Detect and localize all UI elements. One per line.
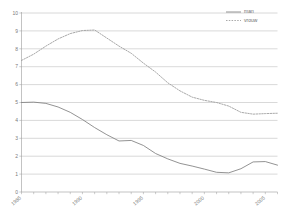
y-axis-tick-label: 4: [15, 117, 18, 123]
y-axis-tick-label: 0: [15, 189, 18, 195]
y-axis-tick-label: 2: [15, 153, 18, 159]
y-axis-tick-label: 10: [12, 10, 18, 16]
x-axis-tick-label: 2000: [193, 195, 206, 207]
legend-label-man: man: [244, 8, 254, 14]
legend-label-vrouw: vrouw: [244, 17, 258, 23]
y-axis-tick-label: 6: [15, 81, 18, 87]
series-lines-group: [22, 30, 278, 173]
x-axis-tick-label: 2005: [254, 195, 267, 207]
y-axis-tick-label: 8: [15, 46, 18, 52]
series-line-man: [22, 102, 278, 173]
x-axis-labels-group: 19851990199520002005: [10, 195, 266, 207]
line-chart: 109876543210 19851990199520002005 manvro…: [0, 0, 283, 218]
legend-group: manvrouw: [226, 8, 258, 23]
axes-group: [22, 12, 278, 192]
x-axis-tick-label: 1995: [132, 195, 145, 207]
y-axis-tick-label: 9: [15, 28, 18, 34]
tickmarks-group: [19, 13, 277, 194]
y-axis-tick-label: 7: [15, 63, 18, 69]
y-axis-tick-label: 5: [15, 99, 18, 105]
series-line-vrouw: [22, 30, 278, 114]
y-axis-tick-label: 1: [15, 171, 18, 177]
x-axis-tick-label: 1985: [10, 195, 23, 207]
y-axis-tick-label: 3: [15, 135, 18, 141]
chart-plot-area: 109876543210 19851990199520002005 manvro…: [0, 0, 283, 218]
x-axis-tick-label: 1990: [71, 195, 84, 207]
y-axis-labels-group: 109876543210: [12, 10, 18, 195]
